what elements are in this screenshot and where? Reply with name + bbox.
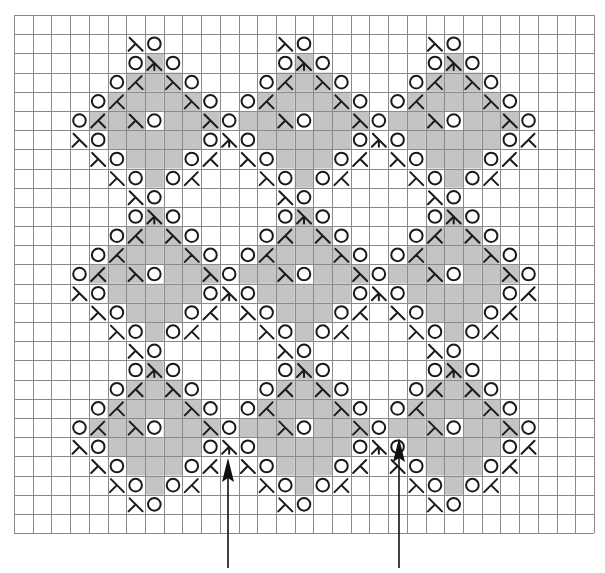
yarn-over-icon: [242, 440, 255, 453]
shaded-cell: [313, 92, 332, 111]
shaded-cell: [463, 92, 482, 111]
yarn-over-icon: [111, 383, 124, 396]
shaded-cell: [164, 149, 183, 168]
yarn-over-icon: [485, 306, 498, 319]
right-decrease-icon: [129, 498, 143, 511]
yarn-over-icon: [466, 479, 479, 492]
left-decrease-icon: [503, 153, 517, 166]
shaded-cell: [295, 130, 314, 149]
shaded-cell: [388, 111, 407, 130]
shaded-cell: [295, 92, 314, 111]
left-decrease-icon: [522, 441, 536, 454]
shaded-cells: [89, 53, 519, 494]
yarn-over-icon: [279, 325, 292, 338]
shaded-cell: [126, 456, 145, 475]
shaded-cell: [444, 284, 463, 303]
yarn-over-icon: [298, 37, 311, 50]
left-decrease-icon: [334, 479, 348, 492]
yarn-over-icon: [279, 172, 292, 185]
yarn-over-icon: [410, 460, 423, 473]
right-decrease-icon: [391, 460, 405, 473]
shaded-cell: [276, 437, 295, 456]
yarn-over-icon: [92, 133, 105, 146]
yarn-over-icon: [92, 402, 105, 415]
yarn-over-icon: [260, 460, 273, 473]
left-decrease-icon: [185, 172, 199, 185]
left-decrease-icon: [484, 479, 498, 492]
yarn-over-icon: [485, 383, 498, 396]
right-decrease-icon: [278, 38, 292, 51]
shaded-cell: [463, 437, 482, 456]
right-decrease-icon: [72, 287, 86, 300]
shaded-cell: [407, 418, 426, 437]
yarn-over-icon: [316, 364, 329, 377]
shaded-cell: [276, 245, 295, 264]
shaded-cell: [164, 303, 183, 322]
shaded-cell: [295, 399, 314, 418]
shaded-cell: [444, 437, 463, 456]
yarn-over-icon: [148, 37, 161, 50]
shaded-cell: [295, 73, 314, 92]
shaded-cell: [108, 418, 127, 437]
left-decrease-icon: [203, 153, 217, 166]
shaded-cell: [182, 284, 201, 303]
yarn-over-icon: [522, 268, 535, 281]
right-decrease-icon: [278, 191, 292, 204]
yarn-over-icon: [504, 133, 517, 146]
yarn-over-icon: [298, 421, 311, 434]
yarn-over-icon: [429, 210, 442, 223]
shaded-cell: [145, 456, 164, 475]
shaded-cell: [426, 284, 445, 303]
yarn-over-icon: [298, 191, 311, 204]
shaded-cell: [313, 303, 332, 322]
right-decrease-icon: [391, 306, 405, 319]
shaded-cell: [295, 303, 314, 322]
yarn-over-icon: [92, 287, 105, 300]
shaded-cell: [145, 73, 164, 92]
yarn-over-icon: [391, 402, 404, 415]
shaded-cell: [407, 284, 426, 303]
shaded-cell: [444, 399, 463, 418]
yarn-over-icon: [260, 229, 273, 242]
yarn-over-icon: [466, 210, 479, 223]
shaded-cell: [257, 284, 276, 303]
yarn-over-icon: [354, 287, 367, 300]
right-decrease-icon: [428, 498, 442, 511]
shaded-cell: [108, 130, 127, 149]
yarn-over-icon: [391, 133, 404, 146]
shaded-cell: [463, 130, 482, 149]
right-decrease-icon: [110, 172, 124, 185]
shaded-cell: [108, 284, 127, 303]
shaded-cell: [313, 264, 332, 283]
shaded-cell: [426, 437, 445, 456]
shaded-cell: [164, 418, 183, 437]
left-decrease-icon: [203, 460, 217, 473]
yarn-over-icon: [298, 498, 311, 511]
yarn-over-icon: [391, 249, 404, 262]
shaded-cell: [145, 380, 164, 399]
shaded-cell: [239, 418, 258, 437]
right-decrease-icon: [110, 326, 124, 339]
shaded-cell: [463, 264, 482, 283]
shaded-cell: [145, 284, 164, 303]
shaded-cell: [257, 418, 276, 437]
right-decrease-icon: [110, 479, 124, 492]
shaded-cell: [276, 399, 295, 418]
left-decrease-icon: [353, 306, 367, 319]
shaded-cell: [332, 111, 351, 130]
right-decrease-icon: [129, 38, 143, 51]
yarn-over-icon: [129, 172, 142, 185]
shaded-cell: [463, 111, 482, 130]
yarn-over-icon: [92, 440, 105, 453]
yarn-over-icon: [447, 345, 460, 358]
shaded-cell: [332, 130, 351, 149]
yarn-over-icon: [373, 268, 386, 281]
yarn-over-icon: [466, 325, 479, 338]
yarn-over-icon: [504, 402, 517, 415]
yarn-over-icon: [129, 325, 142, 338]
yarn-over-icon: [298, 268, 311, 281]
shaded-cell: [463, 399, 482, 418]
right-decrease-icon: [409, 479, 423, 492]
yarn-over-icon: [204, 95, 217, 108]
shaded-cell: [426, 245, 445, 264]
